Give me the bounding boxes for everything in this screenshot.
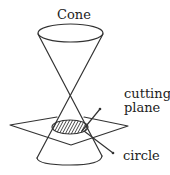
circle-label: circle — [123, 148, 160, 163]
cone-label: Cone — [57, 7, 91, 22]
cutting-plane-label-line2: plane — [124, 100, 161, 115]
cone-bottom-arc — [37, 156, 102, 165]
circle-leader-dot — [112, 152, 115, 155]
diagram-svg: Cone — [0, 0, 170, 175]
cone-top-ellipse — [38, 24, 103, 42]
cutting-plane-label-line1: cutting — [124, 86, 170, 101]
conic-section-diagram: Cone — [0, 0, 170, 175]
cutting-plane-leader-dot — [99, 108, 102, 111]
